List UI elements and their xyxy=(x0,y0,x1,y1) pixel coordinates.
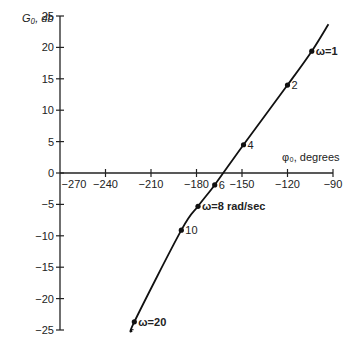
x-tick-label: −120 xyxy=(275,178,300,190)
y-tick-label: −10 xyxy=(35,230,54,242)
data-point-label: ω=8 rad/sec xyxy=(202,200,265,212)
x-tick-label: −270 xyxy=(62,178,87,190)
y-tick-label: 10 xyxy=(42,104,54,116)
data-point-label: 10 xyxy=(185,224,197,236)
nichols-chart: 2520151050−5−10−15−20−25 −270−240−210−18… xyxy=(0,0,354,349)
data-point xyxy=(195,204,200,209)
x-axis-ticks: −270−240−210−180−150−120−90 xyxy=(62,169,343,190)
data-point xyxy=(309,49,314,54)
y-tick-label: 15 xyxy=(42,73,54,85)
y-tick-label: 20 xyxy=(42,41,54,53)
y-tick-label: −25 xyxy=(35,324,54,336)
data-point-label: 4 xyxy=(248,139,254,151)
x-tick-label: −90 xyxy=(324,178,343,190)
x-tick-label: −240 xyxy=(93,178,118,190)
data-point xyxy=(212,182,217,187)
y-tick-label: −15 xyxy=(35,261,54,273)
data-point-label: 6 xyxy=(219,179,225,191)
data-point-label: ω=1 xyxy=(316,45,338,57)
data-point xyxy=(241,142,246,147)
data-point xyxy=(132,319,137,324)
y-tick-label: −5 xyxy=(41,198,54,210)
y-axis-title: G₀, db xyxy=(22,12,54,24)
data-point xyxy=(285,82,290,87)
x-tick-label: −150 xyxy=(230,178,255,190)
data-point-label: ω=20 xyxy=(138,316,166,328)
data-point-label: 2 xyxy=(292,79,298,91)
y-tick-label: 5 xyxy=(48,136,54,148)
x-axis-title: φ₀, degrees xyxy=(282,151,340,163)
y-tick-label: −20 xyxy=(35,293,54,305)
x-tick-label: −210 xyxy=(139,178,164,190)
x-tick-label: −180 xyxy=(184,178,209,190)
data-point xyxy=(179,228,184,233)
y-tick-label: 0 xyxy=(48,167,54,179)
